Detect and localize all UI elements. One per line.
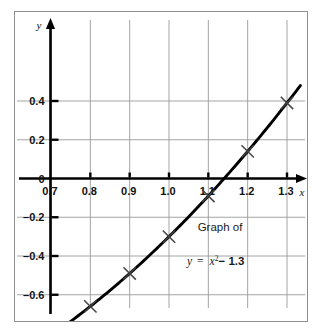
chart-canvas: 0.70.80.91.01.11.21.30.40.20–0.2–0.4–0.6… — [15, 12, 307, 321]
y-axis-arrow — [46, 18, 55, 29]
y-tick-label-1: 0.2 — [29, 134, 44, 146]
x-tick-label-6: 1.3 — [278, 185, 293, 197]
y-tick-label-5: –0.6 — [23, 289, 44, 301]
x-axis-name: x — [299, 186, 305, 198]
plot-frame: 0.70.80.91.01.11.21.30.40.20–0.2–0.4–0.6… — [14, 11, 308, 322]
x-tick-label-5: 1.2 — [239, 185, 254, 197]
x-tick-label-0: 0.7 — [42, 185, 57, 197]
y-tick-label-4: –0.4 — [23, 250, 45, 262]
x-axis-arrow — [296, 174, 307, 183]
y-axis-name: y — [36, 19, 42, 31]
x-tick-label-3: 1.0 — [160, 185, 175, 197]
data-curve — [48, 86, 301, 321]
equation-lhs: y — [186, 255, 193, 268]
caption-graph-of: Graph of — [198, 221, 244, 233]
figure-container: 0.70.80.91.01.11.21.30.40.20–0.2–0.4–0.6… — [0, 0, 322, 335]
equation-tail: − 1.3 — [218, 255, 244, 267]
y-tick-label-2: 0 — [38, 173, 44, 185]
x-tick-label-2: 0.9 — [121, 185, 136, 197]
equation-equals: = — [197, 255, 204, 267]
y-tick-label-0: 0.4 — [29, 95, 45, 107]
x-tick-label-1: 0.8 — [82, 185, 97, 197]
y-tick-label-3: –0.2 — [23, 211, 44, 223]
